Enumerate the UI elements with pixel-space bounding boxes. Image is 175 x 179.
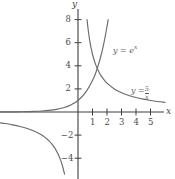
annotation-exponential-label: y = ex bbox=[113, 44, 137, 55]
y-axis-label: y bbox=[72, 0, 77, 9]
annotation-exp-text: y = e bbox=[113, 46, 134, 55]
fraction-numerator: 5 bbox=[145, 86, 149, 93]
function-graph-figure: 12345−4−22468 y x y = ex y = 5x bbox=[0, 0, 175, 179]
annotation-hyp-fraction: 5x bbox=[145, 80, 149, 101]
curve-hyperbola-branch-3 bbox=[0, 123, 65, 174]
y-tick-label: 6 bbox=[65, 38, 70, 47]
y-tick-label: 4 bbox=[65, 61, 70, 70]
annotation-hyp-text: y = bbox=[131, 86, 145, 95]
x-tick-label: 3 bbox=[119, 118, 124, 127]
curve-exponential bbox=[0, 20, 108, 112]
y-tick-label: −4 bbox=[61, 154, 74, 163]
x-tick-label: 4 bbox=[134, 118, 139, 127]
annotation-exp-exponent: x bbox=[134, 43, 137, 50]
annotation-hyperbola-label: y = 5x bbox=[131, 80, 149, 101]
x-axis-label: x bbox=[166, 107, 171, 116]
x-tick-label: 5 bbox=[148, 118, 153, 127]
y-tick-label: 8 bbox=[65, 15, 70, 24]
x-tick-label: 1 bbox=[90, 118, 95, 127]
x-tick-label: 2 bbox=[105, 118, 110, 127]
y-tick-label: 2 bbox=[65, 84, 70, 93]
y-tick-label: −2 bbox=[61, 131, 74, 140]
curve-hyperbola-branch-1 bbox=[87, 20, 165, 103]
fraction-denominator: x bbox=[145, 93, 149, 101]
